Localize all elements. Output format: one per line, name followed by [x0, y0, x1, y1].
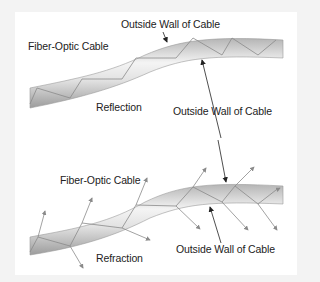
label-fiber-optic-cable-top: Fiber-Optic Cable — [28, 40, 109, 52]
label-reflection: Reflection — [96, 101, 142, 113]
wall-bottom-arrow-lower — [218, 140, 226, 182]
wall-bottom-arrow-upper — [202, 60, 221, 138]
wall-top-arrow — [163, 32, 167, 42]
label-outside-wall-bottom: Outside Wall of Cable — [176, 243, 275, 255]
label-fiber-optic-cable-bottom: Fiber-Optic Cable — [60, 174, 141, 186]
label-outside-wall-middle: Outside Wall of Cable — [173, 105, 272, 117]
label-outside-wall-top: Outside Wall of Cable — [121, 18, 220, 30]
label-refraction: Refraction — [96, 252, 143, 264]
refraction-wall-arrow — [210, 207, 221, 243]
